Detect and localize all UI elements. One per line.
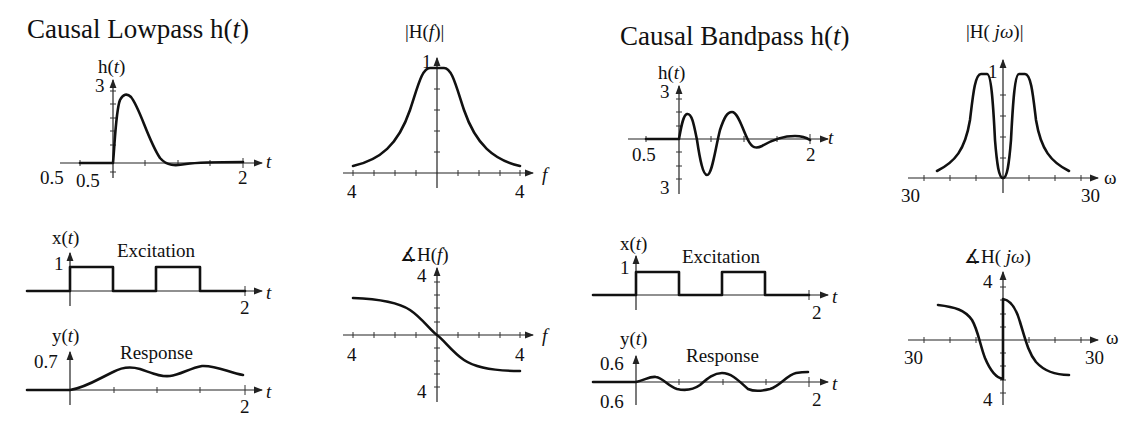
lp-exc-ylabel: x(t) <box>52 228 79 247</box>
bp-phase-ylabel: ∡H( jω) <box>964 247 1031 266</box>
bp-mag-xvar: ω <box>1104 168 1117 187</box>
lp-phase-xmin: 4 <box>347 345 357 364</box>
bp-impulse-xmax: 2 <box>806 145 816 164</box>
lp-mag-xvar: f <box>542 165 547 184</box>
lp-exc-xvar: t <box>266 283 271 302</box>
bp-impulse-ylabel-post: ) <box>679 62 685 83</box>
lp-phase-ymin: 4 <box>417 382 427 401</box>
bp-resp-xvar: t <box>832 374 837 393</box>
lp-magnitude-plot <box>343 58 533 188</box>
lp-resp-xmax: 2 <box>240 397 250 416</box>
bp-phase-xmax: 30 <box>1085 348 1104 367</box>
bp-phase-ylabel-post: ) <box>1025 246 1031 267</box>
bp-phase-ymax: 4 <box>983 272 993 291</box>
lp-impulse-xvar: t <box>266 152 271 171</box>
bp-phase-ylabel-var: jω <box>1006 246 1025 267</box>
lp-resp-xvar: t <box>266 382 271 401</box>
bp-resp-ymin: 0.6 <box>600 392 624 411</box>
bp-exc-ylabel-pre: x( <box>620 233 636 254</box>
lp-impulse-ymax: 3 <box>95 76 105 95</box>
lp-impulse-ylabel-post: ) <box>119 56 125 77</box>
lp-exc-ylabel-pre: x( <box>52 227 68 248</box>
lp-resp-ymax: 0.7 <box>34 352 58 371</box>
lp-phase-ylabel-pre: ∡H( <box>400 244 437 265</box>
bp-exc-ymax: 1 <box>620 258 630 277</box>
lp-mag-ylabel-pre: |H( <box>405 21 429 42</box>
lp-phase-plot <box>343 268 533 402</box>
bp-exc-ylabel: x(t) <box>620 234 647 253</box>
bp-resp-xmax: 2 <box>812 390 822 409</box>
bp-mag-xmin: 30 <box>901 186 920 205</box>
bp-resp-caption: Response <box>686 346 759 365</box>
plots-canvas <box>0 0 1146 435</box>
lp-mag-xmin: 4 <box>347 182 357 201</box>
lp-phase-xvar: f <box>542 326 547 345</box>
lp-exc-ymax: 1 <box>54 254 64 273</box>
bp-phase-ymin: 4 <box>983 390 993 409</box>
lp-phase-ylabel: ∡H(f) <box>400 245 449 264</box>
lp-mag-xmax: 4 <box>515 182 525 201</box>
bp-phase-xmin: 30 <box>904 348 923 367</box>
lp-mag-ylabel-post: )| <box>434 21 444 42</box>
lp-mag-ymax: 1 <box>422 52 432 71</box>
lp-phase-ylabel-post: ) <box>442 244 448 265</box>
bp-impulse-ylabel: h(t) <box>658 63 685 82</box>
lp-impulse-plot <box>60 80 262 178</box>
lp-mag-ylabel: |H(f)| <box>405 22 444 41</box>
lp-exc-ylabel-post: ) <box>73 227 79 248</box>
lp-resp-caption: Response <box>120 343 193 362</box>
bp-impulse-plot <box>628 86 828 194</box>
bp-exc-caption: Excitation <box>682 247 760 266</box>
lp-exc-caption: Excitation <box>117 241 195 260</box>
lp-impulse-ymin: 0.5 <box>76 171 100 190</box>
lp-resp-ylabel-pre: y( <box>52 325 68 346</box>
bp-exc-xmax: 2 <box>812 303 822 322</box>
bp-resp-ylabel: y(t) <box>620 329 647 348</box>
bp-mag-ymax: 1 <box>988 62 998 81</box>
bp-magnitude-plot <box>908 60 1098 193</box>
lp-phase-xmax: 4 <box>515 345 525 364</box>
bp-phase-ylabel-pre: ∡H( <box>964 246 1006 267</box>
bp-impulse-ylabel-pre: h( <box>658 62 674 83</box>
bp-mag-ylabel-post: )| <box>1013 21 1023 42</box>
bp-mag-ylabel-var: jω <box>995 21 1014 42</box>
bp-impulse-xvar: t <box>828 128 833 147</box>
lp-exc-xmax: 2 <box>240 298 250 317</box>
lp-phase-ymax: 4 <box>417 266 427 285</box>
bp-impulse-xmin: 0.5 <box>632 145 656 164</box>
lp-impulse-xmax: 2 <box>238 168 248 187</box>
bp-resp-ylabel-post: ) <box>641 328 647 349</box>
bp-impulse-ymin: 3 <box>660 178 670 197</box>
bp-exc-ylabel-post: ) <box>641 233 647 254</box>
bp-resp-ymax: 0.6 <box>600 354 624 373</box>
lp-impulse-ylabel: h(t) <box>98 57 125 76</box>
bp-mag-ylabel-pre: |H( <box>966 21 995 42</box>
lp-impulse-xmin-left: 0.5 <box>40 168 64 187</box>
lp-resp-ylabel-post: ) <box>73 325 79 346</box>
bp-exc-xvar: t <box>832 287 837 306</box>
bp-mag-xmax: 30 <box>1081 186 1100 205</box>
lp-resp-ylabel: y(t) <box>52 326 79 345</box>
bp-phase-xvar: ω <box>1106 328 1119 347</box>
lp-impulse-ylabel-pre: h( <box>98 56 114 77</box>
bp-phase-plot <box>908 272 1098 405</box>
bp-mag-ylabel: |H( jω)| <box>966 22 1023 41</box>
bp-impulse-ymax: 3 <box>660 82 670 101</box>
bp-resp-ylabel-pre: y( <box>620 328 636 349</box>
